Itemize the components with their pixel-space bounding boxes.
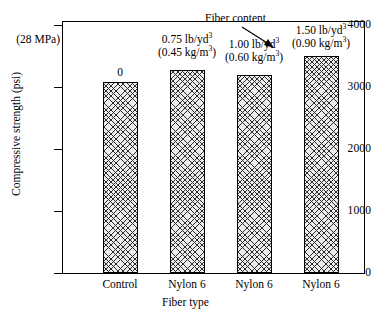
y-tick-mark-0	[54, 273, 62, 274]
y-tick-mark-3000	[54, 87, 62, 88]
bar-nylon6-100	[237, 75, 272, 273]
annotation-fiber-content: Fiber content	[205, 12, 266, 24]
bar-nylon6-150	[304, 56, 339, 273]
bar-nylon6-075	[170, 70, 205, 273]
x-axis-title: Fiber type	[0, 296, 371, 308]
x-tick-label-4: Nylon 6	[281, 278, 361, 290]
bar-label-nylon6-100-line2: (0.60 kg/m3)	[199, 51, 309, 64]
bar-control	[103, 82, 138, 273]
bar-label-nylon6-150-line2: (0.90 kg/m3)	[266, 37, 376, 50]
y-tick-mark-1000	[54, 211, 62, 212]
bar-label-nylon6-150: 1.50 lb/yd3 (0.90 kg/m3)	[266, 24, 376, 49]
bar-label-nylon6-150-line1: 1.50 lb/yd3	[266, 24, 376, 37]
y-tick-mark-4000	[54, 25, 62, 26]
y-axis-title: Compressive strength (psi)	[10, 34, 22, 234]
y-tick-mark-2000	[54, 149, 62, 150]
bar-label-control-line1: 0	[117, 66, 123, 78]
bar-label-control: 0	[65, 66, 175, 79]
